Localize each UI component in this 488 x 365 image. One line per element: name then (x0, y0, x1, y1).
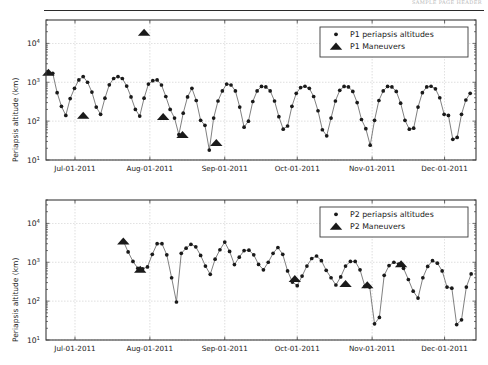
svg-text:101: 101 (27, 155, 40, 165)
svg-text:101: 101 (27, 335, 40, 345)
chart1-y-axis-label: Periapsis altitude (km) (11, 12, 20, 162)
svg-text:104: 104 (27, 218, 41, 228)
chart2-y-axis-label: Periapsis altitude (km) (11, 192, 20, 342)
svg-text:102: 102 (27, 296, 40, 306)
svg-text:102: 102 (27, 116, 40, 126)
svg-text:Dec-01-2011: Dec-01-2011 (421, 344, 468, 353)
svg-text:Nov-01-2011: Nov-01-2011 (349, 164, 395, 173)
svg-text:Dec-01-2011: Dec-01-2011 (421, 164, 468, 173)
svg-text:Oct-01-2011: Oct-01-2011 (275, 164, 320, 173)
svg-text:Nov-01-2011: Nov-01-2011 (349, 344, 395, 353)
svg-text:Oct-01-2011: Oct-01-2011 (275, 344, 320, 353)
svg-text:103: 103 (27, 257, 40, 267)
svg-text:Jul-01-2011: Jul-01-2011 (53, 344, 95, 353)
page-header-band: SAMPLE PAGE HEADER (0, 0, 488, 11)
svg-text:Sep-01-2011: Sep-01-2011 (202, 164, 248, 173)
legend-label: P1 periapsis altitudes (350, 30, 434, 39)
chart-p2-periapsis: Periapsis altitude (km) 101102103104Jul-… (0, 192, 488, 364)
figure-page: SAMPLE PAGE HEADER Periapsis altitude (k… (0, 0, 488, 365)
svg-text:104: 104 (27, 38, 41, 48)
legend-label: P1 Maneuvers (350, 42, 405, 51)
legend-label: P2 periapsis altitudes (350, 210, 434, 219)
svg-text:Sep-01-2011: Sep-01-2011 (202, 344, 248, 353)
svg-text:103: 103 (27, 77, 40, 87)
svg-text:Aug-01-2011: Aug-01-2011 (127, 344, 174, 353)
legend-label: P2 Maneuvers (350, 222, 405, 231)
page-header-text: SAMPLE PAGE HEADER (412, 0, 482, 5)
header-rule (44, 10, 484, 11)
svg-text:Jul-01-2011: Jul-01-2011 (53, 164, 95, 173)
chart2-plot: 101102103104Jul-01-2011Aug-01-2011Sep-01… (0, 192, 488, 364)
chart-p1-periapsis: Periapsis altitude (km) 101102103104Jul-… (0, 12, 488, 184)
svg-text:Aug-01-2011: Aug-01-2011 (127, 164, 174, 173)
chart1-plot: 101102103104Jul-01-2011Aug-01-2011Sep-01… (0, 12, 488, 184)
